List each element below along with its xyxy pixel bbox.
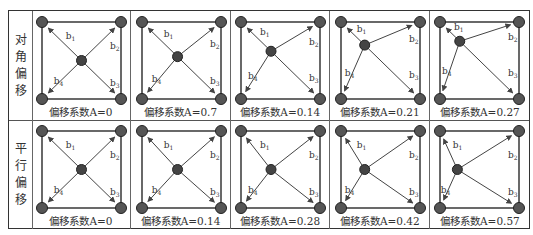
svg-text:b3: b3 bbox=[508, 187, 518, 198]
svg-text:b1: b1 bbox=[66, 140, 76, 151]
diagram-cell: b1b2b3b4偏移系数A=0 bbox=[32, 11, 131, 120]
diagram-cell: b1b2b3b4偏移系数A=0 bbox=[32, 120, 131, 229]
diagram-cell: b1b2b3b4偏移系数A=0.7 bbox=[132, 11, 231, 120]
svg-text:b3: b3 bbox=[210, 76, 220, 87]
svg-text:b2: b2 bbox=[110, 150, 120, 161]
svg-text:b4: b4 bbox=[54, 76, 64, 87]
svg-text:b1: b1 bbox=[260, 27, 270, 38]
svg-text:b1: b1 bbox=[163, 29, 173, 40]
row-label-char: 移 bbox=[15, 192, 27, 209]
offset-coefficient-caption: 偏移系数A=0.21 bbox=[331, 104, 429, 119]
offset-coefficient-caption: 偏移系数A=0.28 bbox=[231, 213, 329, 228]
svg-text:b4: b4 bbox=[151, 74, 161, 85]
svg-text:b2: b2 bbox=[110, 41, 120, 52]
offset-coefficient-caption: 偏移系数A=0.57 bbox=[430, 213, 529, 228]
svg-text:b3: b3 bbox=[309, 73, 319, 84]
svg-text:b2: b2 bbox=[309, 150, 319, 161]
row-label-char: 行 bbox=[15, 158, 27, 175]
svg-text:b3: b3 bbox=[508, 68, 518, 79]
svg-text:b3: b3 bbox=[110, 78, 120, 89]
diagram-cell: b1b2b3b4偏移系数A=0.27 bbox=[430, 11, 529, 120]
svg-text:b3: b3 bbox=[409, 187, 419, 198]
offset-coefficient-caption: 偏移系数A=0.27 bbox=[430, 104, 529, 119]
offset-coefficient-caption: 偏移系数A=0.14 bbox=[231, 104, 329, 119]
svg-text:b4: b4 bbox=[345, 68, 355, 79]
row-label-char: 移 bbox=[15, 83, 27, 100]
svg-text:b2: b2 bbox=[210, 150, 220, 161]
diagram-cell: b1b2b3b4偏移系数A=0.57 bbox=[430, 120, 529, 229]
svg-text:b1: b1 bbox=[454, 22, 464, 33]
row-label-char: 对 bbox=[15, 32, 27, 49]
svg-text:b4: b4 bbox=[248, 185, 258, 196]
svg-text:b4: b4 bbox=[54, 185, 64, 196]
svg-text:b1: b1 bbox=[66, 31, 76, 42]
svg-text:b3: b3 bbox=[210, 187, 220, 198]
svg-text:b4: b4 bbox=[151, 185, 161, 196]
svg-text:b2: b2 bbox=[210, 39, 220, 50]
svg-text:b2: b2 bbox=[508, 150, 518, 161]
row-label-char: 偏 bbox=[15, 66, 27, 83]
svg-text:b1: b1 bbox=[453, 140, 463, 151]
svg-text:b2: b2 bbox=[508, 32, 518, 43]
row-label: 对角偏移 bbox=[9, 11, 33, 120]
svg-text:b1: b1 bbox=[357, 140, 367, 151]
offset-coefficient-caption: 偏移系数A=0.42 bbox=[331, 213, 429, 228]
row-label-char: 角 bbox=[15, 49, 27, 66]
svg-text:b1: b1 bbox=[163, 140, 173, 151]
svg-text:b3: b3 bbox=[110, 187, 120, 198]
diagram-cell: b1b2b3b4偏移系数A=0.42 bbox=[331, 120, 430, 229]
row-parallel-offset: 平行偏移b1b2b3b4偏移系数A=0b1b2b3b4偏移系数A=0.14b1b… bbox=[9, 120, 529, 229]
svg-text:b3: b3 bbox=[309, 187, 319, 198]
svg-text:b1: b1 bbox=[260, 140, 270, 151]
svg-text:b1: b1 bbox=[357, 24, 367, 35]
offset-coefficient-caption: 偏移系数A=0 bbox=[32, 104, 130, 119]
offset-coefficient-caption: 偏移系数A=0.14 bbox=[132, 213, 230, 228]
offset-figure: 对角偏移b1b2b3b4偏移系数A=0b1b2b3b4偏移系数A=0.7b1b2… bbox=[8, 10, 530, 229]
svg-text:b3: b3 bbox=[409, 70, 419, 81]
svg-text:b2: b2 bbox=[409, 150, 419, 161]
svg-text:b2: b2 bbox=[309, 37, 319, 48]
diagram-cell: b1b2b3b4偏移系数A=0.28 bbox=[231, 120, 330, 229]
svg-text:b4: b4 bbox=[345, 185, 355, 196]
diagram-cell: b1b2b3b4偏移系数A=0.14 bbox=[231, 11, 330, 120]
diagram-cell: b1b2b3b4偏移系数A=0.21 bbox=[331, 11, 430, 120]
row-label-char: 偏 bbox=[15, 175, 27, 192]
svg-text:b4: b4 bbox=[248, 71, 258, 82]
svg-text:b2: b2 bbox=[409, 34, 419, 45]
svg-text:b4: b4 bbox=[441, 185, 451, 196]
row-label: 平行偏移 bbox=[9, 120, 33, 229]
offset-coefficient-caption: 偏移系数A=0.7 bbox=[132, 104, 230, 119]
row-label-char: 平 bbox=[15, 141, 27, 158]
offset-coefficient-caption: 偏移系数A=0 bbox=[32, 213, 130, 228]
row-diagonal-offset: 对角偏移b1b2b3b4偏移系数A=0b1b2b3b4偏移系数A=0.7b1b2… bbox=[9, 11, 529, 121]
diagram-cell: b1b2b3b4偏移系数A=0.14 bbox=[132, 120, 231, 229]
